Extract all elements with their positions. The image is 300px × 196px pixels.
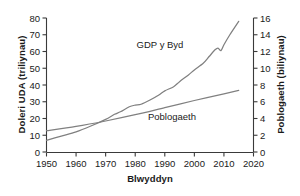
tick-label-x: 2000 <box>184 158 205 169</box>
tick-label-x: 1980 <box>125 158 146 169</box>
tick-label-x: 2020 <box>243 158 264 169</box>
tick-label-left: 80 <box>29 13 40 24</box>
tick-label-right: 0 <box>260 147 265 158</box>
series-line-poblogaeth <box>47 90 239 130</box>
tick-label-left: 10 <box>29 130 40 141</box>
axis-left <box>43 18 47 152</box>
tick-label-right: 2 <box>260 130 265 141</box>
y-axis-title-right: Poblogaeth (biliynau) <box>275 15 286 155</box>
tick-labels-bottom: 1950 1960 1970 1980 1990 2000 2010 2020 <box>36 158 264 169</box>
x-axis-title: Blwyddyn <box>0 173 300 184</box>
chart-container: 80 70 60 50 40 30 20 10 0 16 14 12 10 8 … <box>0 0 300 196</box>
axis-bottom <box>47 153 254 157</box>
tick-label-left: 60 <box>29 46 40 57</box>
tick-labels-left: 80 70 60 50 40 30 20 10 0 <box>29 13 40 158</box>
tick-label-left: 0 <box>35 147 40 158</box>
chart-plot-area: 80 70 60 50 40 30 20 10 0 16 14 12 10 8 … <box>0 0 300 196</box>
tick-label-x: 1960 <box>65 158 86 169</box>
tick-label-right: 10 <box>260 63 271 74</box>
tick-label-right: 4 <box>260 113 265 124</box>
axis-right <box>254 18 258 152</box>
tick-label-left: 70 <box>29 29 40 40</box>
series-annotation-poblogaeth: Poblogaeth <box>148 111 196 122</box>
tick-label-x: 1970 <box>95 158 116 169</box>
tick-label-x: 1950 <box>36 158 57 169</box>
tick-label-left: 20 <box>29 113 40 124</box>
tick-label-x: 1990 <box>154 158 175 169</box>
tick-label-x: 2010 <box>213 158 234 169</box>
tick-label-right: 12 <box>260 46 271 57</box>
series-annotation-gdp-y-byd: GDP y Byd <box>137 39 184 50</box>
tick-label-right: 16 <box>260 13 271 24</box>
tick-label-right: 6 <box>260 96 265 107</box>
tick-label-left: 50 <box>29 63 40 74</box>
tick-labels-right: 16 14 12 10 8 6 4 2 0 <box>260 13 271 158</box>
tick-label-right: 14 <box>260 29 271 40</box>
tick-label-left: 40 <box>29 80 40 91</box>
tick-label-left: 30 <box>29 96 40 107</box>
y-axis-title-left: Doleri UDA (triliynau) <box>16 15 27 155</box>
tick-label-right: 8 <box>260 80 265 91</box>
